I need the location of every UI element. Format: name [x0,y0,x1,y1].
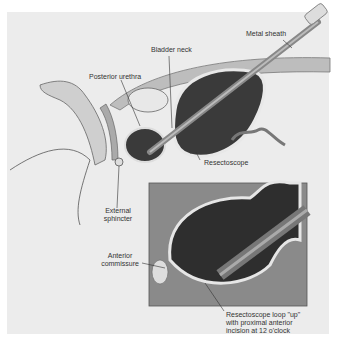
label-resectoscope-loop: Resectoscope loop "up" with proximal ant… [226,311,300,335]
label-resectoscope: Resectoscope [204,159,248,167]
label-posterior-urethra: Posterior urethra [89,73,141,81]
label-anterior-commissure: Anterior commissure [100,252,140,268]
label-external-sphincter: External sphincter [100,207,136,223]
label-metal-sheath: Metal sheath [246,30,286,38]
label-bladder-neck: Bladder neck [151,46,192,54]
